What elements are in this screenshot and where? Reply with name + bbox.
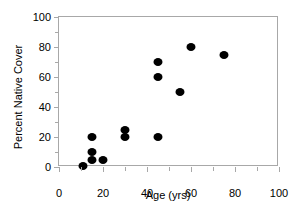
y-tick-label: 0 xyxy=(25,161,51,173)
y-tick xyxy=(54,167,59,168)
y-tick-label: 40 xyxy=(25,101,51,113)
data-point xyxy=(220,51,229,59)
x-tick-minor xyxy=(169,167,170,171)
y-tick-label: 20 xyxy=(25,131,51,143)
data-point xyxy=(176,88,185,96)
y-tick-minor xyxy=(55,62,59,63)
y-tick xyxy=(54,47,59,48)
data-point xyxy=(154,133,163,141)
data-point xyxy=(154,73,163,81)
x-tick xyxy=(147,167,148,172)
x-tick xyxy=(59,167,60,172)
data-point xyxy=(88,156,97,164)
x-tick-minor xyxy=(213,167,214,171)
scatter-plot-figure: 020406080100 020406080100 Age (yrs) Perc… xyxy=(0,0,302,217)
plot-area: 020406080100 020406080100 xyxy=(58,16,278,166)
data-point xyxy=(121,133,130,141)
y-tick-label: 80 xyxy=(25,41,51,53)
data-point xyxy=(121,126,130,134)
data-point xyxy=(154,58,163,66)
y-tick-minor xyxy=(55,152,59,153)
x-tick-minor xyxy=(81,167,82,171)
data-point xyxy=(88,133,97,141)
y-tick xyxy=(54,107,59,108)
y-tick-label: 100 xyxy=(25,11,51,23)
y-tick-minor xyxy=(55,32,59,33)
y-tick-minor xyxy=(55,92,59,93)
y-tick-label: 60 xyxy=(25,71,51,83)
data-point xyxy=(99,156,108,164)
x-tick-minor xyxy=(257,167,258,171)
x-tick xyxy=(103,167,104,172)
x-tick xyxy=(279,167,280,172)
y-tick xyxy=(54,137,59,138)
x-tick xyxy=(235,167,236,172)
x-axis-title: Age (yrs) xyxy=(58,189,278,201)
x-tick-minor xyxy=(125,167,126,171)
data-point xyxy=(88,148,97,156)
y-axis-title: Percent Native Cover xyxy=(12,17,24,177)
y-tick-minor xyxy=(55,122,59,123)
y-tick xyxy=(54,17,59,18)
y-tick xyxy=(54,77,59,78)
x-tick xyxy=(191,167,192,172)
data-point xyxy=(187,43,196,51)
